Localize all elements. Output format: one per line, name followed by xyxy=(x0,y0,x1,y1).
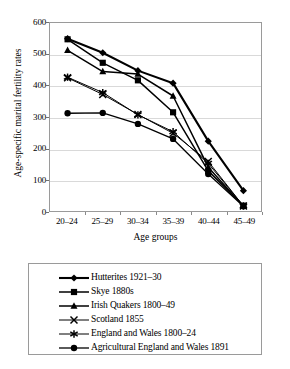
series-5 xyxy=(64,110,246,210)
marker-square xyxy=(65,36,71,42)
marker-square xyxy=(71,288,77,294)
legend-item-5[interactable]: Agricultural England and Wales 1891 xyxy=(57,340,229,355)
legend-label-2: Irish Quakers 1800–49 xyxy=(91,300,175,311)
legend-label-0: Hutterites 1921–30 xyxy=(91,272,161,283)
y-tick-label-600: 600 xyxy=(6,18,46,27)
series-line xyxy=(68,113,244,206)
marker-circle xyxy=(240,203,246,209)
y-tick-label-400: 400 xyxy=(6,81,46,90)
series-3 xyxy=(64,74,247,209)
legend-label-5: Agricultural England and Wales 1891 xyxy=(91,342,229,353)
x-tick-mark-5 xyxy=(262,212,263,215)
y-tick-label-100: 100 xyxy=(6,176,46,185)
series-lines-layer xyxy=(50,23,261,211)
marker-square xyxy=(135,77,141,83)
y-tick-label-300: 300 xyxy=(6,113,46,122)
y-tick-mark-500 xyxy=(45,54,49,55)
legend-marker-asterisk-icon xyxy=(57,327,91,341)
y-tick-mark-200 xyxy=(45,149,49,150)
x-tick-mark-3 xyxy=(191,212,192,215)
marker-circle xyxy=(71,344,77,350)
legend-item-2[interactable]: Irish Quakers 1800–49 xyxy=(57,298,175,313)
plot-area xyxy=(49,22,262,212)
y-tick-mark-300 xyxy=(45,117,49,118)
marker-triangle xyxy=(64,47,71,53)
legend-marker-x-icon xyxy=(57,313,91,327)
x-tick-mark-2 xyxy=(156,212,157,215)
y-tick-label-200: 200 xyxy=(6,144,46,153)
marker-square xyxy=(100,60,106,66)
y-tick-mark-100 xyxy=(45,180,49,181)
y-tick-label-0: 0 xyxy=(6,208,46,217)
marker-diamond xyxy=(99,49,106,56)
marker-circle xyxy=(205,171,211,177)
figure: 0100200300400500600 20–2425–2930–3435–39… xyxy=(0,0,290,369)
legend-item-4[interactable]: England and Wales 1800–24 xyxy=(57,326,196,341)
marker-circle xyxy=(135,121,141,127)
legend-label-1: Skye 1880s xyxy=(91,286,134,297)
legend-marker-diamond-icon xyxy=(57,271,91,285)
y-tick-label-500: 500 xyxy=(6,49,46,58)
legend-label-3: Scotland 1855 xyxy=(91,314,144,325)
legend-label-4: England and Wales 1800–24 xyxy=(91,328,196,339)
legend-item-1[interactable]: Skye 1880s xyxy=(57,284,134,299)
series-line xyxy=(68,39,244,191)
legend-item-0[interactable]: Hutterites 1921–30 xyxy=(57,270,161,285)
chart-region: 0100200300400500600 20–2425–2930–3435–39… xyxy=(0,0,290,250)
legend-marker-triangle-icon xyxy=(57,299,91,313)
x-tick-mark-0 xyxy=(85,212,86,215)
series-1 xyxy=(65,36,247,209)
x-tick-mark-1 xyxy=(120,212,121,215)
x-tick-label-5: 45–49 xyxy=(222,216,266,226)
series-4 xyxy=(64,74,247,210)
marker-circle xyxy=(170,136,176,142)
y-axis-title: Age-specific marital fertility rates xyxy=(13,23,23,203)
marker-square xyxy=(170,109,176,115)
marker-circle xyxy=(100,110,106,116)
legend-item-3[interactable]: Scotland 1855 xyxy=(57,312,144,327)
legend: Hutterites 1921–30Skye 1880sIrish Quaker… xyxy=(28,263,262,355)
marker-triangle xyxy=(170,92,177,98)
x-axis-title: Age groups xyxy=(49,232,262,242)
marker-circle xyxy=(64,110,70,116)
legend-marker-circle-icon xyxy=(57,341,91,355)
series-0 xyxy=(64,35,247,194)
y-tick-mark-600 xyxy=(45,22,49,23)
y-tick-mark-400 xyxy=(45,85,49,86)
series-line xyxy=(68,39,244,205)
legend-marker-square-icon xyxy=(57,285,91,299)
marker-diamond xyxy=(70,274,77,281)
y-tick-mark-0 xyxy=(45,212,49,213)
x-tick-mark-4 xyxy=(227,212,228,215)
